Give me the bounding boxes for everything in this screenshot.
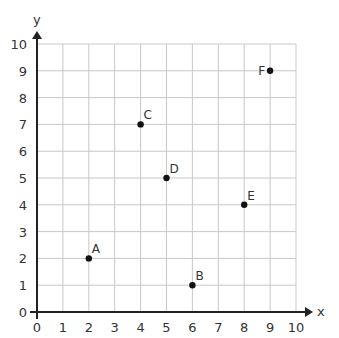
y-tick-label: 5 — [19, 171, 27, 186]
point-label: D — [170, 162, 179, 176]
x-tick-label: 4 — [136, 320, 144, 335]
x-tick-label: 3 — [111, 320, 119, 335]
y-tick-label: 1 — [19, 278, 27, 293]
y-tick-labels: 012345678910 — [10, 37, 27, 320]
y-tick-label: 10 — [10, 37, 27, 52]
point-label: E — [247, 189, 255, 203]
y-tick-label: 6 — [19, 144, 27, 159]
y-tick-label: 3 — [19, 225, 27, 240]
point-label: C — [144, 108, 152, 122]
x-tick-label: 7 — [214, 320, 222, 335]
x-tick-label: 8 — [240, 320, 248, 335]
x-tick-label: 10 — [288, 320, 305, 335]
x-tick-label: 0 — [33, 320, 41, 335]
x-tick-label: 1 — [59, 320, 67, 335]
coordinate-plane-chart: x y 012345678910 012345678910 ABCDEF — [0, 0, 339, 338]
x-axis-arrow-icon — [305, 307, 313, 317]
y-tick-label: 4 — [19, 198, 27, 213]
y-axis-label: y — [33, 12, 41, 27]
x-tick-label: 5 — [162, 320, 170, 335]
x-tick-label: 6 — [188, 320, 196, 335]
x-axis-label: x — [317, 304, 325, 319]
y-tick-label: 2 — [19, 251, 27, 266]
y-tick-label: 8 — [19, 91, 27, 106]
y-tick-label: 9 — [19, 64, 27, 79]
point-label: F — [258, 64, 265, 78]
y-tick-label: 0 — [19, 305, 27, 320]
point-label: B — [195, 269, 203, 283]
y-axis-arrow-icon — [32, 31, 42, 39]
point-marker-icon — [267, 68, 273, 74]
x-tick-labels: 012345678910 — [33, 320, 304, 335]
point-label: A — [92, 242, 101, 256]
x-tick-label: 9 — [266, 320, 274, 335]
x-tick-label: 2 — [85, 320, 93, 335]
y-tick-label: 7 — [19, 117, 27, 132]
